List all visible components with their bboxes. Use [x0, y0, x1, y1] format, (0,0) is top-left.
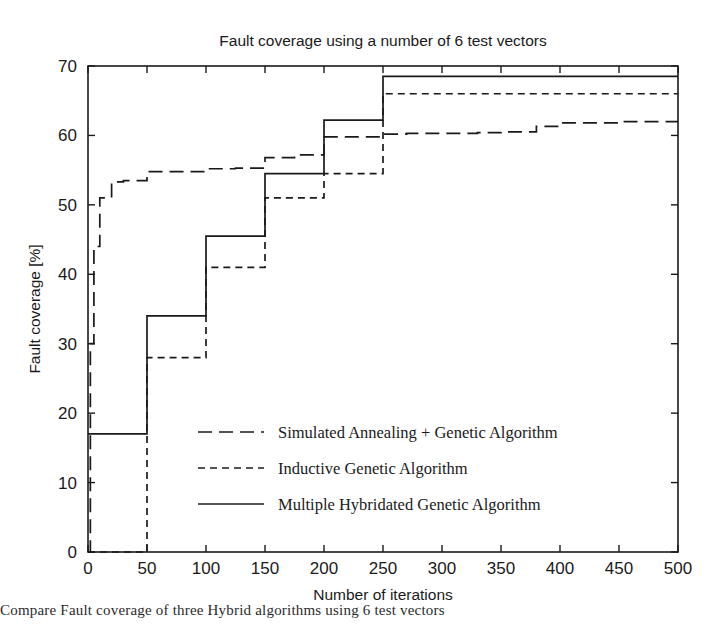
x-tick-label: 200 [310, 559, 338, 578]
x-tick-label: 500 [664, 559, 692, 578]
chart-title: Fault coverage using a number of 6 test … [219, 32, 547, 49]
x-tick-label: 450 [605, 559, 633, 578]
y-tick-label: 10 [58, 474, 77, 493]
y-tick-label: 20 [58, 404, 77, 423]
x-tick-label: 300 [428, 559, 456, 578]
fault-coverage-chart: Fault coverage using a number of 6 test … [0, 0, 723, 632]
y-axis-title: Fault coverage [%] [26, 244, 43, 373]
figure-container: Fault coverage using a number of 6 test … [0, 0, 723, 632]
x-tick-label: 50 [138, 559, 157, 578]
x-tick-label: 350 [487, 559, 515, 578]
y-tick-label: 0 [68, 543, 77, 562]
x-tick-label: 0 [83, 559, 92, 578]
series-line-3 [88, 76, 678, 434]
x-tick-label: 100 [192, 559, 220, 578]
x-tick-label: 150 [251, 559, 279, 578]
y-tick-label: 60 [58, 126, 77, 145]
y-tick-label: 70 [58, 57, 77, 76]
x-tick-label: 400 [546, 559, 574, 578]
series-line-1 [88, 122, 678, 552]
y-tick-label: 40 [58, 265, 77, 284]
figure-caption: Compare Fault coverage of three Hybrid a… [0, 600, 723, 632]
series-line-2 [88, 94, 678, 552]
legend-label-1: Simulated Annealing + Genetic Algorithm [278, 423, 558, 442]
legend-label-3: Multiple Hybridated Genetic Algorithm [278, 495, 541, 514]
y-tick-label: 50 [58, 196, 77, 215]
caption-text: Compare Fault coverage of three Hybrid a… [0, 602, 445, 619]
legend-label-2: Inductive Genetic Algorithm [278, 459, 468, 478]
y-tick-label: 30 [58, 335, 77, 354]
x-tick-label: 250 [369, 559, 397, 578]
